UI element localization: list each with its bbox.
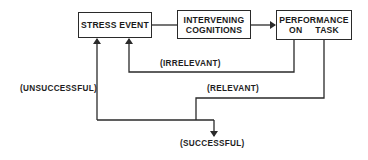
node-label: INTERVENING xyxy=(184,15,245,25)
edge-label-unsuccessful: (UNSUCCESSFUL) xyxy=(20,84,97,93)
edge-label-relevant: (RELEVANT) xyxy=(207,84,259,93)
node-label: ON TASK xyxy=(289,25,339,35)
node-performance-on-task: PERFORMANCE ON TASK xyxy=(276,10,352,40)
diagram-canvas: STRESS EVENT INTERVENING COGNITIONS PERF… xyxy=(0,0,368,160)
node-label: PERFORMANCE xyxy=(279,15,349,25)
node-label: COGNITIONS xyxy=(186,25,242,35)
node-intervening-cognitions: INTERVENING COGNITIONS xyxy=(177,10,251,39)
edge-label-irrelevant: (IRRELEVANT) xyxy=(160,59,221,68)
edge-label-successful: (SUCCESSFUL) xyxy=(180,139,245,148)
node-label: STRESS EVENT xyxy=(81,20,149,30)
edge-relevant xyxy=(196,40,324,120)
node-stress-event: STRESS EVENT xyxy=(78,12,152,38)
